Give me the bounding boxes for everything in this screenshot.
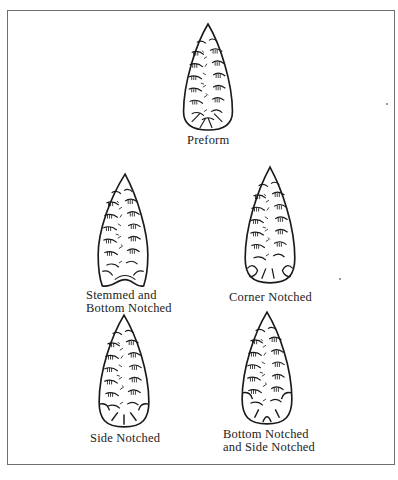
side-notched-point-drawing [97, 313, 151, 429]
stemmed-bottom-notched-point-drawing [95, 172, 151, 290]
bottom-and-side-notched-label-line2: and Side Notched [223, 441, 315, 454]
preform-point-drawing [180, 22, 236, 132]
scan-speck [339, 278, 341, 280]
side-notched-label: Side Notched [90, 432, 160, 445]
scan-speck [386, 103, 388, 105]
corner-notched-point-drawing [242, 165, 298, 287]
corner-notched-label: Corner Notched [229, 291, 312, 304]
preform-label: Preform [187, 134, 229, 147]
bottom-and-side-notched-point-drawing [240, 310, 294, 426]
